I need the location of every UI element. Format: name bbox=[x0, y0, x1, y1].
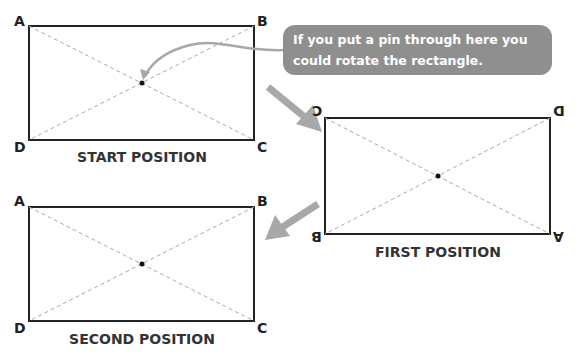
second-corner-a: A bbox=[14, 193, 25, 209]
start-corner-d: D bbox=[14, 139, 26, 155]
first-rectangle bbox=[325, 118, 550, 234]
start-caption: START POSITION bbox=[27, 149, 257, 165]
second-corner-d: D bbox=[14, 320, 26, 336]
first-corner-d: D bbox=[553, 103, 565, 119]
second-caption: SECOND POSITION bbox=[27, 331, 257, 347]
callout-bubble: If you put a pin through here you could … bbox=[283, 25, 552, 75]
callout-line-1: If you put a pin through here you bbox=[293, 29, 542, 50]
second-corner-c: C bbox=[257, 320, 267, 336]
second-rectangle bbox=[29, 207, 254, 321]
callout-line-2: could rotate the rectangle. bbox=[293, 50, 542, 71]
second-corner-b: B bbox=[257, 193, 268, 209]
start-corner-a: A bbox=[14, 13, 25, 29]
callout-pointer bbox=[146, 43, 285, 74]
first-corner-a: A bbox=[553, 229, 564, 245]
first-corner-c: C bbox=[312, 103, 322, 119]
start-corner-b: B bbox=[257, 13, 268, 29]
first-corner-b: B bbox=[311, 229, 322, 245]
first-caption: FIRST POSITION bbox=[323, 244, 553, 260]
start-corner-c: C bbox=[257, 139, 267, 155]
